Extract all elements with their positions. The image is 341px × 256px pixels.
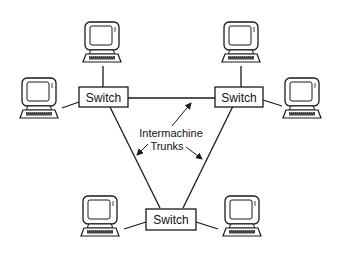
computer-icon	[20, 78, 58, 118]
annotation-line2: Trunks	[150, 140, 184, 152]
network-diagram: Switch Switch Switch Intermachine Trunks	[0, 0, 341, 256]
switch-left: Switch	[79, 87, 128, 107]
computer-icon	[223, 196, 261, 236]
trunk-left-bottom	[110, 107, 160, 208]
computer-icon	[222, 22, 260, 62]
computer-icon	[83, 22, 121, 62]
computer-icon	[81, 196, 119, 236]
switch-label: Switch	[153, 213, 188, 227]
trunks-annotation: Intermachine Trunks	[137, 103, 203, 159]
switch-bottom: Switch	[146, 209, 196, 230]
trunk-lines	[110, 98, 233, 208]
trunk-right-bottom	[183, 106, 233, 208]
annotation-line1: Intermachine	[139, 127, 203, 139]
computer-icon	[283, 78, 321, 118]
switch-label: Switch	[86, 91, 121, 105]
switch-right: Switch	[215, 87, 263, 107]
switch-label: Switch	[221, 91, 256, 105]
